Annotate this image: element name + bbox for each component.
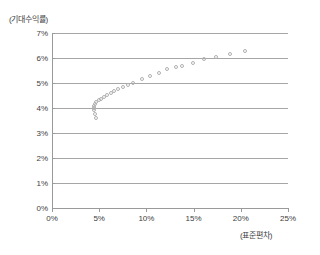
y-tick: 1% bbox=[26, 183, 48, 184]
gridline bbox=[52, 133, 288, 134]
y-tick: 6% bbox=[26, 58, 48, 59]
gridline bbox=[52, 58, 288, 59]
y-tick: 2% bbox=[26, 158, 48, 159]
x-tick-label: 5% bbox=[93, 214, 105, 223]
y-tick-mark bbox=[52, 158, 55, 159]
chart-container: (기대수익률) 0%1%2%3%4%5%6%7% 0%5%10%15%20%25… bbox=[0, 0, 320, 255]
y-axis-title: (기대수익률) bbox=[9, 13, 48, 24]
y-tick-label: 0% bbox=[36, 204, 48, 213]
data-point-marker bbox=[191, 61, 195, 65]
y-tick-mark bbox=[52, 133, 55, 134]
y-tick: 5% bbox=[26, 83, 48, 84]
x-tick-mark bbox=[241, 208, 242, 212]
x-tick-label: 15% bbox=[186, 214, 202, 223]
x-tick-label: 20% bbox=[233, 214, 249, 223]
plot-area bbox=[52, 33, 288, 208]
data-point-marker bbox=[214, 55, 218, 59]
y-tick-mark bbox=[52, 83, 55, 84]
gridline bbox=[52, 108, 288, 109]
data-point-marker bbox=[126, 83, 130, 87]
gridline bbox=[52, 158, 288, 159]
x-tick-label: 0% bbox=[46, 214, 58, 223]
gridline bbox=[52, 83, 288, 84]
y-tick: 3% bbox=[26, 133, 48, 134]
y-tick-label: 5% bbox=[36, 79, 48, 88]
gridline bbox=[52, 33, 288, 34]
data-point-marker bbox=[93, 112, 97, 116]
x-tick-mark bbox=[194, 208, 195, 212]
y-tick-mark bbox=[52, 33, 55, 34]
gridline bbox=[52, 183, 288, 184]
x-tick-mark bbox=[288, 208, 289, 212]
y-tick: 7% bbox=[26, 33, 48, 34]
y-tick: 0% bbox=[26, 208, 48, 209]
y-tick-mark bbox=[52, 58, 55, 59]
y-tick-mark bbox=[52, 183, 55, 184]
y-tick-label: 2% bbox=[36, 154, 48, 163]
data-point-marker bbox=[157, 71, 161, 75]
y-tick-label: 4% bbox=[36, 104, 48, 113]
y-tick-label: 7% bbox=[36, 29, 48, 38]
x-tick-label: 25% bbox=[280, 214, 296, 223]
x-tick-mark bbox=[52, 208, 53, 212]
data-point-marker bbox=[174, 65, 178, 69]
x-tick-mark bbox=[146, 208, 147, 212]
x-tick-label: 10% bbox=[138, 214, 154, 223]
y-tick-label: 3% bbox=[36, 129, 48, 138]
y-tick-label: 6% bbox=[36, 54, 48, 63]
x-tick-mark bbox=[99, 208, 100, 212]
y-tick-label: 1% bbox=[36, 179, 48, 188]
data-point-marker bbox=[94, 116, 98, 120]
x-axis-title: (표준편차) bbox=[240, 229, 272, 240]
y-tick-mark bbox=[52, 108, 55, 109]
y-tick: 4% bbox=[26, 108, 48, 109]
data-point-marker bbox=[243, 49, 247, 53]
x-axis-line bbox=[52, 208, 289, 209]
